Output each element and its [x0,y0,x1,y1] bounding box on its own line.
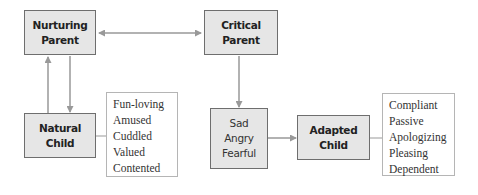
trait-item: Pleasing [389,145,454,161]
critical-parent-box: Critical Parent [204,10,278,55]
trait-item: Contented [113,160,177,176]
natural-child-line1: Natural [39,121,81,136]
adapted-child-box: Adapted Child [297,115,370,160]
trait-item: Compliant [389,97,454,113]
nurturing-parent-box: Nurturing Parent [24,10,96,55]
natural-child-line2: Child [46,136,74,151]
natural-child-traits-list: Fun-loving Amused Cuddled Valued Content… [106,92,178,177]
emotion-item: Angry [224,131,254,146]
trait-item: Fun-loving [113,96,177,112]
trait-item: Amused [113,112,177,128]
emotion-item: Fearful [222,146,256,161]
critical-parent-line2: Parent [222,33,260,48]
trait-item: Passive [389,113,454,129]
adapted-child-line1: Adapted [310,123,358,138]
trait-item: Apologizing [389,129,454,145]
nurturing-parent-line2: Parent [41,33,79,48]
natural-child-box: Natural Child [24,113,96,158]
adapted-child-line2: Child [319,138,347,153]
emotion-item: Sad [230,116,249,131]
critical-parent-line1: Critical [221,18,261,33]
trait-item: Dependent [389,161,454,177]
trait-item: Cuddled [113,128,177,144]
nurturing-parent-line1: Nurturing [32,18,87,33]
trait-item: Valued [113,144,177,160]
emotions-box: Sad Angry Fearful [210,108,268,169]
adapted-child-traits-list: Compliant Passive Apologizing Pleasing D… [382,93,455,176]
